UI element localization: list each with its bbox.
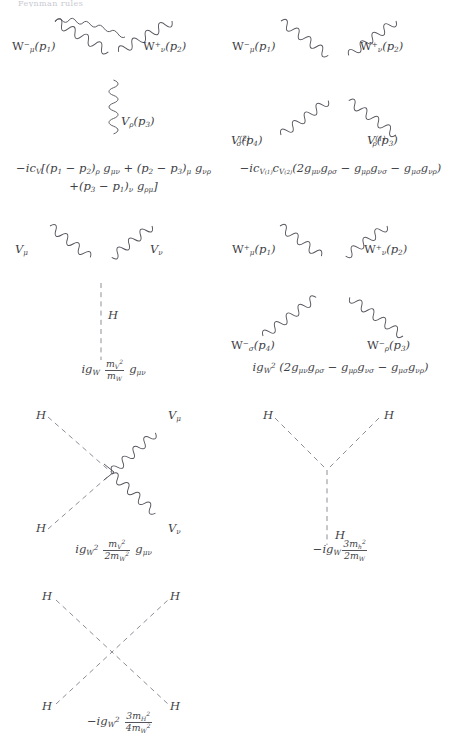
leg-label-higgs-ne: H [170,591,180,603]
leg-label-v1-rho-p3: V(1)ρ(p3) [367,135,398,147]
wave-leg-se [347,294,405,339]
leg-label-v2-sigma-p4: V(2)σ(p4) [231,135,262,147]
leg-label-w-plus-p2: W+ν(p2) [143,41,186,53]
formula-line-1: −igW2 3mH2 4mW2 [0,711,240,734]
wave-leg-sw [279,97,331,138]
dashed-higgs-line-upper [48,417,112,473]
wave-leg-nw [278,223,324,260]
hvv-diagram-graphic [0,212,227,372]
formula-line-1: igW2 mV2 2mW2 gμν [0,539,227,562]
formula-hhh: −igW 3mh2 2mW [227,539,454,562]
leg-label-w-plus-p2: W+ν(p2) [364,244,407,256]
fraction-3mh2-over-2mw: 3mh2 2mW [342,539,366,562]
leg-label-w-minus-p3: W−ρ(p3) [367,340,410,352]
v-boson-wave [109,80,118,134]
leg-label-w-minus-p1: W−μ(p1) [232,41,275,53]
diagram-triple-higgs-vertex: H H H −igW 3mh2 2mW [227,400,454,575]
w-minus-wavy-line [55,18,125,37]
wave-leg-v-mu [47,223,92,261]
leg-label-higgs-nw: H [42,591,52,603]
formula-line-1: igW2 (2gμνgρσ − gμρgνσ − gμσgνρ) [220,359,454,377]
hhhh-diagram-graphic [0,578,240,723]
fraction-3mh2-over-4mw2: 3mH2 4mW2 [125,711,152,734]
diagram-triple-gauge-vertex: W−μ(p1) W+ν(p2) Vρ(p3) −icV[(p1 − p2)ρ g… [0,8,227,200]
formula-hhhh: −igW2 3mH2 4mW2 [0,711,240,734]
leg-label-v-rho-p3: Vρ(p3) [121,116,155,128]
diagram-higgs-higgs-vector-vector-vertex: H H Vμ Vν igW2 mV2 2mW2 gμν [0,400,227,575]
diagram-quartic-higgs-vertex: H H H H −igW2 3mH2 4mW2 [0,578,240,751]
formula-line-1: −icV[(p1 − p2)ρ gμν + (p2 − p3)μ gνρ [0,160,227,178]
leg-label-higgs-left: H [263,410,273,422]
leg-label-w-minus-p4: W−σ(p4) [231,340,275,352]
fraction-mv2-over-2mw2: mV2 2mW2 [103,539,130,562]
dashed-higgs-line-lower [48,473,112,529]
hhvv-diagram-graphic [0,400,227,550]
wave-leg-sw [261,294,319,339]
leg-label-higgs-upper: H [36,410,46,422]
leg-label-v-nu: Vν [168,523,181,535]
formula-line-1: −icV(1)cV(2)(2gμνgρσ − gμρgνσ − gμσgνρ) [222,160,454,178]
leg-label-v-nu: Vν [150,244,163,256]
wave-leg-v-nu [109,471,158,516]
wave-leg-v-mu [109,430,158,475]
formula-line-2: +(p3 − p1)ν gρμ] [0,178,227,196]
triple-gauge-diagram-graphic [0,8,227,158]
leg-label-v-mu: Vμ [15,244,28,256]
wave-leg-v-nu [109,223,154,261]
leg-label-higgs: H [108,310,118,322]
fraction-mv2-over-mw: mV2 mW [105,359,124,382]
formula-hvv: igW mV2 mW gμν [0,359,227,382]
diagram-higgs-vector-vector-vertex: Vμ Vν H igW mV2 mW gμν [0,212,227,397]
diagram-four-w-vertex: W+μ(p1) W+ν(p2) W−σ(p4) W−ρ(p3) igW2 (2g… [227,212,454,397]
formula-line-1: −igW 3mh2 2mW [227,539,454,562]
leg-label-higgs-right: H [384,410,394,422]
leg-label-w-minus-p1: W−μ(p1) [12,41,55,53]
formula-triple-gauge: −icV[(p1 − p2)ρ gμν + (p2 − p3)μ gνρ +(p… [0,160,227,195]
diagram-quartic-gauge-vertex: W−μ(p1) W+ν(p2) V(2)σ(p4) V(1)ρ(p3) −icV… [227,8,454,200]
leg-label-w-plus-p1: W+μ(p1) [232,244,275,256]
dashed-higgs-line-right [327,418,379,470]
formula-quartic-gauge: −icV(1)cV(2)(2gμνgρσ − gμρgνσ − gμσgνρ) [222,160,454,178]
formula-hhvv: igW2 mV2 2mW2 gμν [0,539,227,562]
w-minus-wave [53,17,111,56]
dashed-higgs-line-left [275,418,327,470]
formula-four-w: igW2 (2gμνgρσ − gμρgνσ − gμσgνρ) [220,359,454,377]
leg-label-v-mu: Vμ [168,410,181,422]
wave-leg-nw [279,18,331,59]
leg-label-higgs-lower: H [36,523,46,535]
formula-line-1: igW mV2 mW gμν [0,359,227,382]
running-header: Feynman rules [18,0,198,7]
leg-label-w-plus-p2: W+ν(p2) [360,41,403,53]
